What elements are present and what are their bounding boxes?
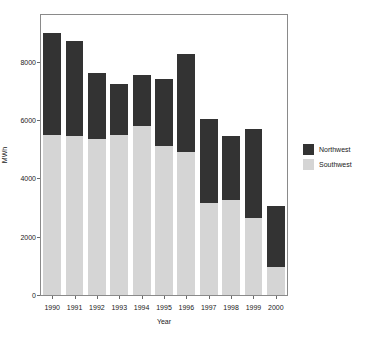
bar-segment-southwest bbox=[66, 136, 84, 295]
bar-1990 bbox=[43, 33, 61, 295]
plot-frame bbox=[40, 14, 288, 296]
x-tick-label: 1992 bbox=[89, 304, 105, 311]
bar-segment-northwest bbox=[245, 129, 263, 218]
chart-screenshot: MWh 02000400060008000 Year 1990199119921… bbox=[0, 0, 367, 340]
bar-segment-northwest bbox=[43, 33, 61, 135]
x-tick-label: 1993 bbox=[111, 304, 127, 311]
bar-segment-northwest bbox=[133, 75, 151, 126]
bar-1992 bbox=[88, 73, 106, 295]
bar-segment-southwest bbox=[267, 267, 285, 295]
bar-1997 bbox=[200, 119, 218, 295]
x-tick-label: 1990 bbox=[44, 304, 60, 311]
x-tick-mark bbox=[75, 296, 76, 299]
x-tick-mark bbox=[164, 296, 165, 299]
legend-swatch-icon bbox=[303, 144, 314, 155]
bar-1995 bbox=[155, 79, 173, 295]
y-axis: MWh 02000400060008000 bbox=[0, 14, 40, 296]
bar-segment-northwest bbox=[88, 73, 106, 139]
x-tick-label: 1991 bbox=[67, 304, 83, 311]
bar-segment-northwest bbox=[267, 206, 285, 267]
y-tick-label: 2000 bbox=[20, 233, 36, 240]
x-tick-mark bbox=[142, 296, 143, 299]
x-tick-label: 1996 bbox=[179, 304, 195, 311]
x-tick-mark bbox=[119, 296, 120, 299]
y-tick-label: 6000 bbox=[20, 117, 36, 124]
x-tick-label: 1999 bbox=[246, 304, 262, 311]
bar-segment-northwest bbox=[66, 41, 84, 136]
bar-segment-northwest bbox=[155, 79, 173, 146]
legend-label: Southwest bbox=[319, 161, 352, 169]
bar-1991 bbox=[66, 41, 84, 295]
y-tick-mark bbox=[37, 120, 40, 121]
y-tick-mark bbox=[37, 62, 40, 63]
x-tick-mark bbox=[253, 296, 254, 299]
bar-segment-southwest bbox=[222, 200, 240, 295]
bar-segment-northwest bbox=[222, 136, 240, 200]
x-axis: Year 19901991199219931994199519961997199… bbox=[40, 296, 288, 340]
plot-area bbox=[41, 15, 287, 295]
chart-legend: NorthwestSouthwest bbox=[303, 144, 352, 170]
bar-segment-northwest bbox=[177, 54, 195, 152]
x-tick-label: 1998 bbox=[223, 304, 239, 311]
legend-label: Northwest bbox=[319, 146, 351, 154]
x-tick-mark bbox=[52, 296, 53, 299]
y-tick-label: 4000 bbox=[20, 175, 36, 182]
y-tick-label: 0 bbox=[32, 292, 36, 299]
bar-1998 bbox=[222, 136, 240, 295]
x-tick-label: 1995 bbox=[156, 304, 172, 311]
x-tick-mark bbox=[209, 296, 210, 299]
bar-segment-southwest bbox=[43, 135, 61, 295]
x-tick-label: 1997 bbox=[201, 304, 217, 311]
x-tick-mark bbox=[97, 296, 98, 299]
x-tick-label: 1994 bbox=[134, 304, 150, 311]
legend-swatch-icon bbox=[303, 159, 314, 170]
bar-segment-northwest bbox=[110, 84, 128, 135]
bar-segment-southwest bbox=[110, 135, 128, 295]
bar-2000 bbox=[267, 206, 285, 295]
x-tick-mark bbox=[276, 296, 277, 299]
bar-segment-southwest bbox=[155, 146, 173, 295]
bar-segment-southwest bbox=[88, 139, 106, 295]
x-tick-mark bbox=[186, 296, 187, 299]
bar-1999 bbox=[245, 129, 263, 295]
legend-item-southwest: Southwest bbox=[303, 159, 352, 170]
bar-segment-southwest bbox=[133, 126, 151, 295]
bar-segment-northwest bbox=[200, 119, 218, 204]
bar-1996 bbox=[177, 54, 195, 295]
bar-segment-southwest bbox=[245, 218, 263, 295]
x-tick-mark bbox=[231, 296, 232, 299]
bar-1993 bbox=[110, 84, 128, 295]
y-tick-mark bbox=[37, 178, 40, 179]
bar-1994 bbox=[133, 75, 151, 295]
y-axis-title: MWh bbox=[1, 147, 8, 163]
bar-segment-southwest bbox=[200, 203, 218, 295]
y-tick-mark bbox=[37, 237, 40, 238]
legend-item-northwest: Northwest bbox=[303, 144, 352, 155]
bar-segment-southwest bbox=[177, 152, 195, 295]
x-tick-label: 2000 bbox=[268, 304, 284, 311]
y-tick-label: 8000 bbox=[20, 58, 36, 65]
x-axis-title: Year bbox=[157, 318, 171, 325]
